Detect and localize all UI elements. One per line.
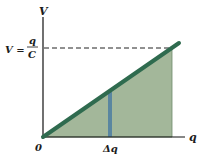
capacitor-energy-graph: V q 0 Δq V = q C (0, 0, 197, 160)
delta-q-strip (108, 92, 112, 137)
level-label-numerator: q (29, 35, 36, 46)
level-label-lhs: V = (5, 44, 25, 55)
x-axis-label: q (189, 131, 197, 144)
level-label-denominator: C (28, 49, 36, 60)
y-axis-label: V (39, 5, 49, 18)
level-label: V = q C (5, 35, 38, 60)
delta-q-label: Δq (102, 143, 118, 154)
origin-label: 0 (35, 142, 42, 153)
